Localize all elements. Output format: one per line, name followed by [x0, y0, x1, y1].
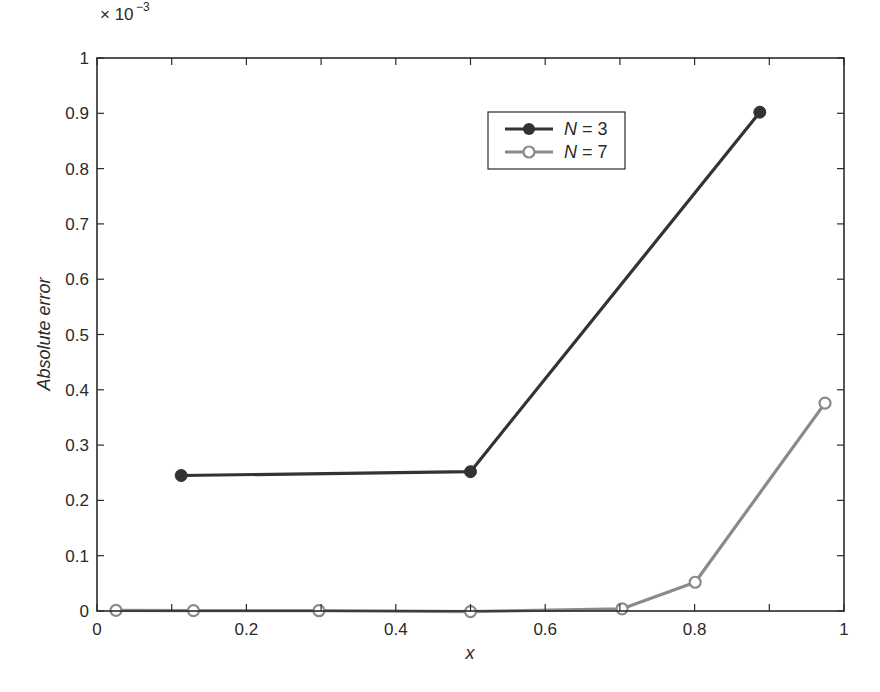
y-multiplier-exponent: −3: [136, 0, 150, 14]
x-tick-label: 0.8: [683, 620, 707, 639]
axes-box: [97, 58, 844, 611]
y-tick-label: 0.2: [65, 491, 89, 510]
x-tick-label: 0: [92, 620, 101, 639]
y-tick-label: 0.7: [65, 215, 89, 234]
x-axis-label: x: [465, 643, 476, 663]
y-axis-label: Absolute error: [34, 276, 54, 391]
data-point: [690, 577, 701, 588]
axes: 00.20.40.60.8100.10.20.30.40.50.60.70.80…: [65, 49, 848, 639]
series-2: [110, 398, 830, 617]
y-tick-label: 0: [80, 602, 89, 621]
y-multiplier-base: × 10: [100, 5, 134, 24]
y-tick-label: 0.4: [65, 381, 89, 400]
legend-marker-open-circle-icon: [524, 147, 535, 158]
legend-label: N = 3: [564, 119, 608, 139]
data-point: [617, 603, 628, 614]
x-tick-label: 0.4: [384, 620, 408, 639]
legend-marker-filled-circle-icon: [523, 123, 535, 135]
y-multiplier: × 10 −3: [100, 0, 150, 24]
line-chart: 00.20.40.60.8100.10.20.30.40.50.60.70.80…: [0, 0, 880, 692]
data-point: [820, 398, 831, 409]
y-tick-label: 1: [80, 49, 89, 68]
legend: N = 3N = 7: [488, 112, 625, 169]
series-line: [116, 403, 825, 611]
series-line: [181, 112, 760, 475]
y-tick-label: 0.3: [65, 436, 89, 455]
y-tick-label: 0.1: [65, 547, 89, 566]
data-point: [175, 470, 187, 482]
data-point: [465, 466, 477, 478]
data-point: [754, 106, 766, 118]
x-tick-label: 0.2: [235, 620, 259, 639]
series-1: [175, 106, 766, 481]
y-tick-label: 0.5: [65, 326, 89, 345]
plot-area: [110, 106, 830, 617]
x-tick-label: 0.6: [533, 620, 557, 639]
y-tick-label: 0.9: [65, 104, 89, 123]
x-tick-label: 1: [839, 620, 848, 639]
y-tick-label: 0.8: [65, 160, 89, 179]
y-tick-label: 0.6: [65, 270, 89, 289]
legend-label: N = 7: [564, 142, 608, 162]
